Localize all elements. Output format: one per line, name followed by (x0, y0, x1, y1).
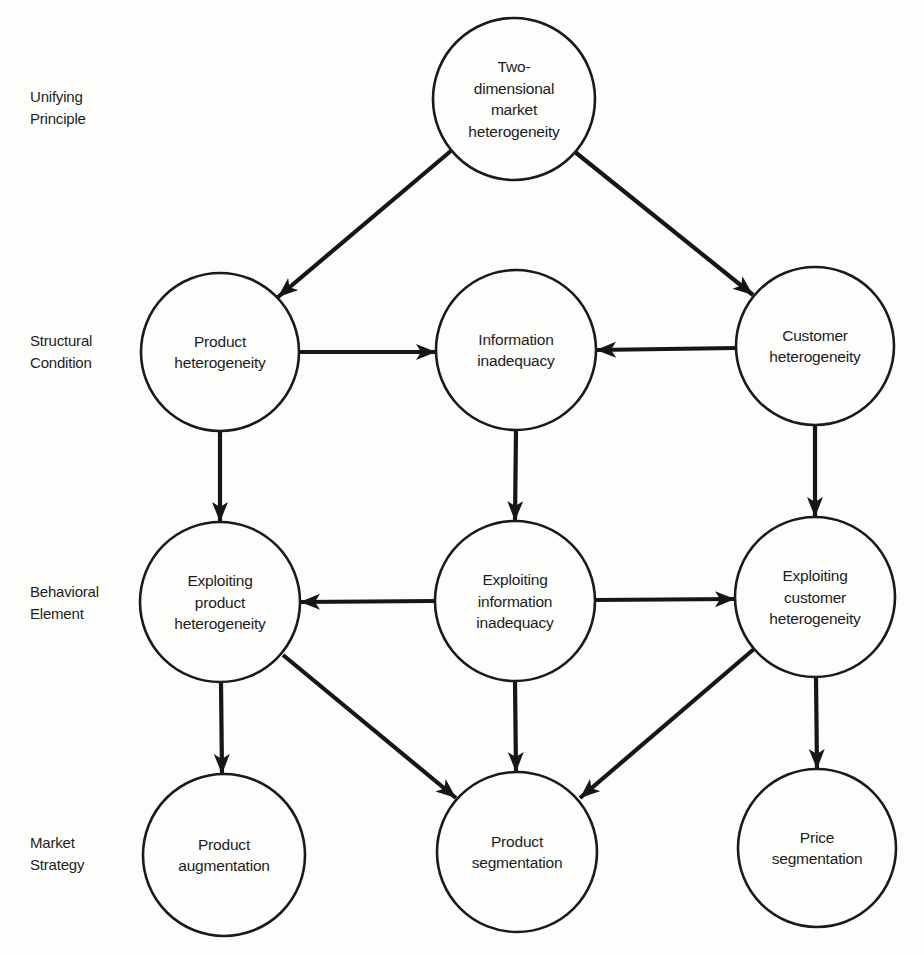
node-product-augmentation: Productaugmentation (143, 774, 305, 936)
node-exploiting-information-inadequacy: Exploitinginformationinadequacy (435, 521, 595, 681)
edges-layer (220, 150, 817, 798)
node-circle (436, 270, 596, 430)
node-label-line: market (491, 101, 538, 118)
node-label-line: heterogeneity (769, 610, 861, 627)
arrow-exploiting-customer-heterogeneity-to-price-segmentation (816, 677, 817, 769)
node-label-line: augmentation (178, 857, 270, 874)
node-label-line: Product (198, 836, 251, 853)
node-label-line: heterogeneity (468, 123, 560, 140)
arrow-exploiting-product-heterogeneity-to-product-augmentation (221, 682, 222, 774)
nodes-layer: Two-dimensionalmarketheterogeneityProduc… (140, 18, 896, 936)
node-label-line: inadequacy (476, 614, 554, 631)
row-label-structural-condition: Structural Condition (30, 330, 92, 374)
arrow-exploiting-information-inadequacy-to-product-segmentation (515, 681, 516, 772)
node-circle (736, 267, 894, 425)
node-label-line: customer (784, 589, 846, 606)
arrow-exploiting-information-inadequacy-to-exploiting-customer-heterogeneity (595, 599, 735, 600)
node-label-line: Exploiting (482, 571, 547, 588)
node-circle (437, 772, 597, 932)
node-two-dimensional-market-heterogeneity: Two-dimensionalmarketheterogeneity (433, 18, 595, 180)
node-label-line: information (478, 593, 552, 610)
node-price-segmentation: Pricesegmentation (738, 769, 896, 927)
node-circle (433, 18, 595, 180)
node-label-line: Two- (498, 58, 531, 75)
node-exploiting-customer-heterogeneity: Exploitingcustomerheterogeneity (735, 517, 895, 677)
arrow-customer-heterogeneity-to-information-inadequacy (596, 348, 736, 350)
node-label-line: heterogeneity (174, 615, 266, 632)
node-product-segmentation: Productsegmentation (437, 772, 597, 932)
node-label-line: product (195, 594, 246, 611)
node-label-line: dimensional (474, 80, 555, 97)
arrow-two-dimensional-market-heterogeneity-to-product-heterogeneity (278, 150, 452, 297)
arrow-exploiting-product-heterogeneity-to-product-segmentation (283, 655, 456, 798)
arrow-information-inadequacy-to-exploiting-information-inadequacy (515, 430, 516, 521)
node-label-line: heterogeneity (769, 348, 861, 365)
node-customer-heterogeneity: Customerheterogeneity (736, 267, 894, 425)
node-label-line: Customer (782, 327, 848, 344)
arrow-exploiting-information-inadequacy-to-exploiting-product-heterogeneity (300, 601, 435, 602)
node-label-line: segmentation (772, 850, 863, 867)
node-label-line: Product (491, 833, 544, 850)
flow-diagram: Two-dimensionalmarketheterogeneityProduc… (0, 0, 924, 955)
arrow-two-dimensional-market-heterogeneity-to-customer-heterogeneity (575, 152, 753, 295)
node-label-line: segmentation (472, 854, 563, 871)
node-circle (738, 769, 896, 927)
node-circle (141, 273, 299, 431)
node-label-line: Information (478, 331, 553, 348)
node-label-line: heterogeneity (174, 354, 266, 371)
node-label-line: inadequacy (477, 352, 555, 369)
node-information-inadequacy: Informationinadequacy (436, 270, 596, 430)
node-circle (143, 774, 305, 936)
node-label-line: Exploiting (782, 567, 847, 584)
arrow-exploiting-customer-heterogeneity-to-product-segmentation (580, 649, 754, 798)
row-label-market-strategy: Market Strategy (30, 832, 84, 876)
node-product-heterogeneity: Productheterogeneity (141, 273, 299, 431)
row-label-behavioral-element: Behavioral Element (30, 581, 99, 625)
node-label-line: Product (194, 333, 247, 350)
node-label-line: Price (800, 829, 834, 846)
node-exploiting-product-heterogeneity: Exploitingproductheterogeneity (140, 522, 300, 682)
node-label-line: Exploiting (187, 572, 252, 589)
row-label-unifying-principle: Unifying Principle (30, 86, 86, 130)
